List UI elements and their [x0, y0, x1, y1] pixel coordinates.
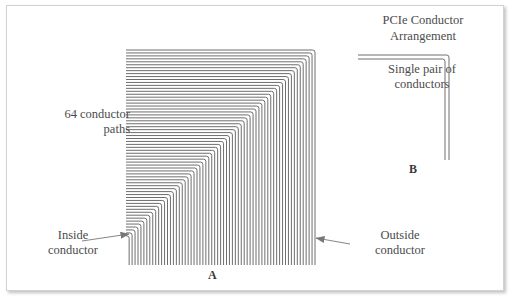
single-pair-note: Single pair of conductors [362, 62, 482, 92]
callout-arrows [82, 234, 350, 244]
inside-conductor-label: Inside conductor [30, 228, 116, 258]
outside-conductor-arrow [316, 238, 350, 244]
pcie-conductor-diagram: PCIe Conductor Arrangement 64 conductor … [0, 0, 518, 306]
conductor-trace [126, 230, 135, 265]
conductor-count-note: 64 conductor paths [18, 107, 130, 137]
conductor-bundle-a [126, 50, 315, 265]
reference-label-a: A [208, 268, 217, 283]
conductor-trace [126, 236, 129, 265]
reference-label-b: B [409, 162, 417, 177]
conductor-trace [126, 212, 153, 265]
outside-conductor-label: Outside conductor [352, 228, 448, 258]
diagram-title: PCIe Conductor Arrangement [352, 12, 494, 44]
diagram-canvas [0, 0, 518, 306]
